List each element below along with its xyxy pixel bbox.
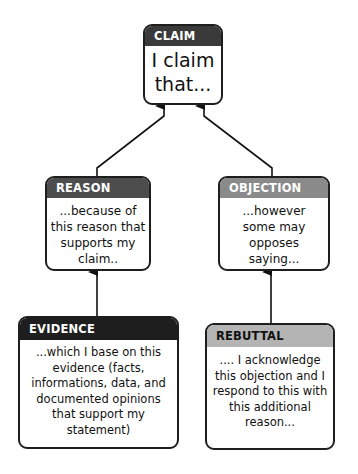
reason-header: REASON [47,178,149,198]
objection-node: OBJECTION ...however some may opposes sa… [218,176,330,271]
rebuttal-node: REBUTTAL .... I acknowledge this objecti… [205,323,335,450]
claim-node: CLAIM I claim that... [143,24,223,105]
objection-header: OBJECTION [220,178,328,198]
evidence-node: EVIDENCE ...which I base on this evidenc… [18,316,179,449]
edge-reason-to-claim [97,106,164,176]
edge-objection-to-claim [204,106,272,176]
rebuttal-text: .... I acknowledge this objection and I … [207,347,333,437]
rebuttal-header: REBUTTAL [207,325,333,347]
reason-node: REASON ...because of this reason that su… [45,176,151,271]
claim-header: CLAIM [145,26,221,46]
evidence-header: EVIDENCE [20,318,177,340]
objection-text: ...however some may opposes saying... [220,198,328,271]
claim-text: I claim that... [145,46,221,98]
evidence-text: ...which I base on this evidence (facts,… [20,340,177,443]
reason-text: ...because of this reason that supports … [47,198,149,271]
